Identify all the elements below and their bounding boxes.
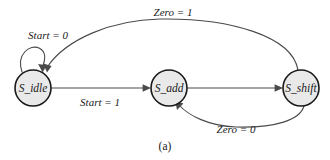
transition-label-start-0: Start = 0 [28,29,68,41]
state-node-s-idle[interactable]: S_idle [15,70,51,106]
transition-label-start-1: Start = 1 [80,96,120,108]
transition-shift-to-idle-path [48,19,298,70]
state-node-s-shift[interactable]: S_shift [283,70,319,106]
transition-add-to-shift [187,84,283,92]
transition-shift-to-add: Zero = 0 [175,101,304,135]
transition-label-zero-0: Zero = 0 [217,123,256,135]
figure-container: Zero = 1 Start = 0 Start = 1 Zero = 0 [0,0,330,160]
figure-caption: (a) [159,140,172,153]
state-diagram-canvas: Zero = 1 Start = 0 Start = 1 Zero = 0 [0,0,330,160]
transition-shift-to-idle: Zero = 1 [43,6,298,73]
transition-idle-to-add-arrowhead [143,84,151,92]
transition-add-to-shift-arrowhead [275,84,283,92]
transition-idle-to-add: Start = 1 [51,84,151,107]
state-node-s-add[interactable]: S_add [151,70,187,106]
state-label-s-idle: S_idle [19,82,48,94]
state-label-s-shift: S_shift [285,82,317,95]
transition-idle-self-loop: Start = 0 [21,29,69,73]
state-label-s-add: S_add [155,82,184,94]
transition-label-zero-1: Zero = 1 [154,6,193,18]
